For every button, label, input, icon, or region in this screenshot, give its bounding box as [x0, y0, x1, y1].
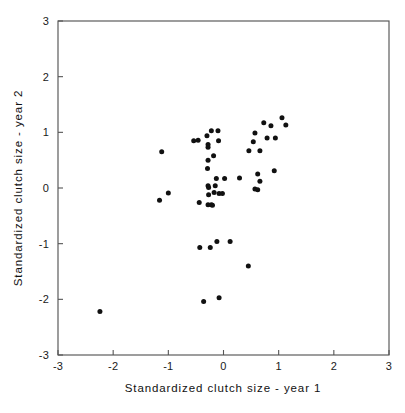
data-point [211, 153, 216, 158]
data-point [237, 175, 242, 180]
data-point [216, 138, 221, 143]
data-point [257, 148, 262, 153]
data-point [206, 185, 211, 190]
data-point [252, 130, 257, 135]
data-point [251, 139, 256, 144]
data-point [209, 128, 214, 133]
data-point [246, 263, 251, 268]
data-point [257, 179, 262, 184]
x-axis-ticks [58, 350, 389, 355]
y-tick-label: 3 [43, 15, 49, 27]
data-point [217, 295, 222, 300]
data-point [220, 191, 225, 196]
data-point [214, 176, 219, 181]
plot-canvas: -3-2-10123 -3-2-10123 Standardized clutc… [0, 0, 405, 413]
data-points [97, 115, 288, 314]
data-point [261, 120, 266, 125]
x-tick-label: 1 [276, 360, 282, 372]
data-point [206, 145, 211, 150]
scatter-plot-figure: -3-2-10123 -3-2-10123 Standardized clutc… [0, 0, 405, 413]
data-point [157, 198, 162, 203]
y-tick-label: -2 [39, 293, 49, 305]
data-point [201, 299, 206, 304]
x-tick-label: -3 [53, 360, 63, 372]
x-axis-title: Standardized clutch size - year 1 [125, 382, 322, 394]
data-point [222, 176, 227, 181]
data-point [210, 203, 215, 208]
data-point [228, 239, 233, 244]
x-tick-label: 3 [386, 360, 392, 372]
data-point [197, 245, 202, 250]
data-point [196, 138, 201, 143]
x-tick-label: -2 [108, 360, 118, 372]
data-point [205, 166, 210, 171]
plot-frame [58, 21, 389, 355]
data-point [272, 168, 277, 173]
data-point [255, 172, 260, 177]
data-point [246, 148, 251, 153]
data-point [273, 135, 278, 140]
data-point [197, 200, 202, 205]
data-point [255, 187, 260, 192]
data-point [159, 149, 164, 154]
data-point [97, 309, 102, 314]
data-point [212, 190, 217, 195]
y-axis-tick-labels: -3-2-10123 [39, 15, 49, 361]
data-point [268, 123, 273, 128]
data-point [283, 123, 288, 128]
data-point [213, 183, 218, 188]
x-tick-label: 0 [220, 360, 226, 372]
y-axis-title: Standardized clutch size - year 2 [12, 90, 24, 287]
y-tick-label: 1 [43, 126, 49, 138]
x-tick-label: -1 [163, 360, 173, 372]
data-point [206, 158, 211, 163]
data-point [204, 133, 209, 138]
data-point [206, 192, 211, 197]
y-tick-label: 2 [43, 71, 49, 83]
data-point [191, 138, 196, 143]
data-point [208, 245, 213, 250]
x-axis-tick-labels: -3-2-10123 [53, 360, 392, 372]
y-tick-label: 0 [43, 182, 49, 194]
x-tick-label: 2 [331, 360, 337, 372]
data-point [279, 115, 284, 120]
y-axis-ticks [58, 21, 63, 355]
y-tick-label: -3 [39, 349, 49, 361]
data-point [215, 128, 220, 133]
data-point [166, 191, 171, 196]
data-point [214, 239, 219, 244]
data-point [265, 135, 270, 140]
y-tick-label: -1 [39, 238, 49, 250]
